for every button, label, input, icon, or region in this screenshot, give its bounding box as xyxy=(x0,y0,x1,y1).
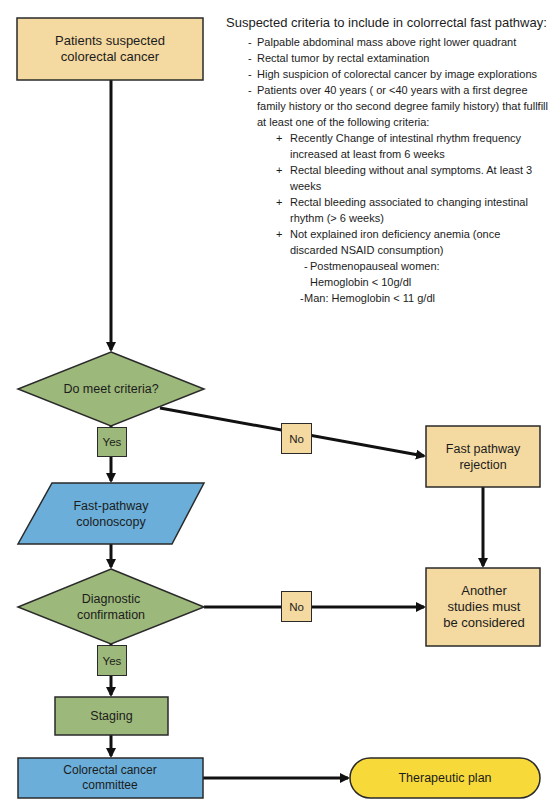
therapeutic-node-shape xyxy=(350,758,540,798)
colonoscopy-shape xyxy=(18,483,204,544)
no1-label: No xyxy=(289,433,304,445)
criteria-item: -Patients over 40 years ( or <40 years w… xyxy=(226,82,551,130)
other-studies-node-shape xyxy=(426,568,540,646)
committee-node-shape xyxy=(18,758,203,798)
anemia-threshold: -Postmenopauseal women: Hemoglobin < 10g… xyxy=(226,258,460,290)
criteria-subitem: +Rectal bleeding associated to changing … xyxy=(226,194,551,226)
rejection-node-shape xyxy=(426,426,540,487)
criteria-item: -Palpable abdominal mass above right low… xyxy=(226,34,551,50)
decision2-shape xyxy=(18,569,204,644)
no1-badge: No xyxy=(281,423,312,454)
start-node-shape xyxy=(17,18,203,80)
criteria-title: Suspected criteria to include in colorre… xyxy=(226,14,551,32)
yes2-label: Yes xyxy=(103,655,122,667)
criteria-subitem: +Recently Change of intestinal rhythm fr… xyxy=(226,130,551,162)
yes1-label: Yes xyxy=(103,436,122,448)
criteria-subitem: +Rectal bleeding without anal symptoms. … xyxy=(226,162,551,194)
criteria-item: -Rectal tumor by rectal extamination xyxy=(226,50,551,66)
yes1-badge: Yes xyxy=(97,427,127,457)
yes2-badge: Yes xyxy=(97,645,127,676)
anemia-threshold: -Man: Hemoglobin < 11 g/dl xyxy=(226,290,551,306)
no2-badge: No xyxy=(281,591,312,622)
no2-label: No xyxy=(289,601,304,613)
criteria-subitem: +Not explained iron deficiency anemia (o… xyxy=(226,226,551,258)
criteria-panel: Suspected criteria to include in colorre… xyxy=(226,14,551,306)
staging-node-shape xyxy=(55,697,168,735)
decision1-shape xyxy=(18,352,204,426)
criteria-item: -High suspicion of colorectal cancer by … xyxy=(226,66,551,82)
